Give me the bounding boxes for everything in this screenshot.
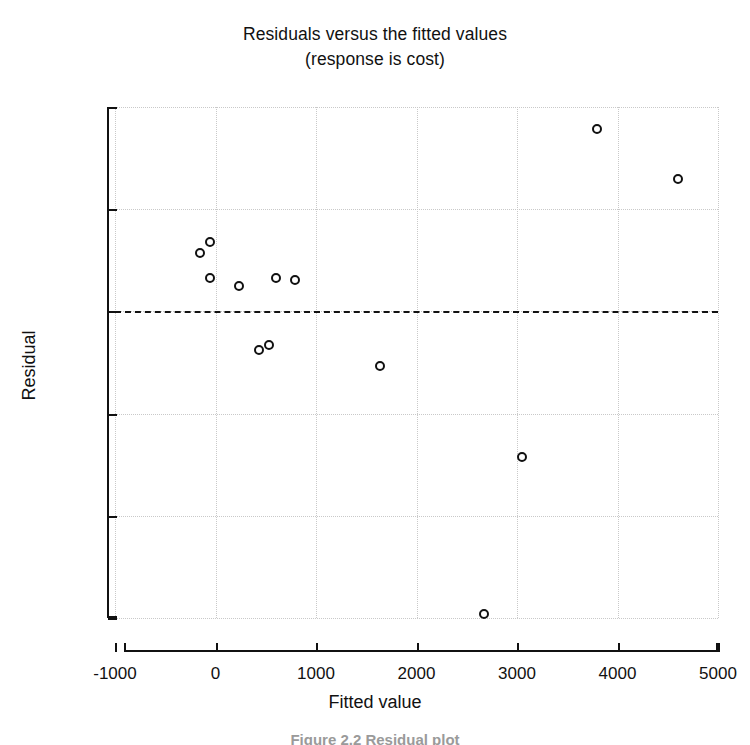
data-point <box>205 273 215 283</box>
gridline-horizontal <box>115 414 718 415</box>
y-axis-tick-label: -1500 <box>0 616 2 736</box>
data-point <box>205 237 215 247</box>
x-axis-tick-label: 2000 <box>398 664 436 684</box>
x-axis-tick-label: 4000 <box>599 664 637 684</box>
gridline-vertical <box>115 107 116 618</box>
data-point <box>195 248 205 258</box>
gridline-vertical <box>618 107 619 618</box>
y-axis-line <box>107 107 109 618</box>
y-axis-tick <box>108 209 117 211</box>
x-axis-tick-label: 0 <box>211 664 220 684</box>
gridline-horizontal <box>115 516 718 517</box>
x-axis-tick <box>115 643 117 652</box>
x-axis-tick-label: -1000 <box>93 664 136 684</box>
data-point <box>290 275 300 285</box>
x-axis-tick-label: 3000 <box>498 664 536 684</box>
data-point <box>264 340 274 350</box>
x-axis-tick <box>216 643 218 652</box>
y-axis-tick <box>108 516 117 518</box>
x-axis-tick <box>417 643 419 652</box>
y-axis-title-wrap: Residual <box>14 270 44 460</box>
y-axis-title: Residual <box>19 271 40 461</box>
x-axis-tick <box>517 643 519 652</box>
y-axis-tick <box>108 311 117 313</box>
y-axis-tick <box>108 618 117 620</box>
x-axis-tick <box>718 643 720 652</box>
gridline-vertical <box>718 107 719 618</box>
x-axis-tick <box>618 643 620 652</box>
residual-plot-figure: Residuals versus the fitted values (resp… <box>0 0 750 745</box>
gridline-vertical <box>417 107 418 618</box>
chart-subtitle: (response is cost) <box>0 47 750 72</box>
gridline-vertical <box>216 107 217 618</box>
data-point <box>479 609 489 619</box>
x-axis-cap-left <box>124 643 126 652</box>
data-point <box>517 452 527 462</box>
plot-area <box>115 107 718 618</box>
data-point <box>592 124 602 134</box>
chart-title-block: Residuals versus the fitted values (resp… <box>0 22 750 72</box>
gridline-horizontal <box>115 209 718 210</box>
gridline-vertical <box>517 107 518 618</box>
data-point <box>375 361 385 371</box>
gridline-vertical <box>316 107 317 618</box>
data-point <box>254 345 264 355</box>
zero-reference-line <box>115 311 718 313</box>
chart-title: Residuals versus the fitted values <box>0 22 750 47</box>
x-axis-tick-label: 1000 <box>297 664 335 684</box>
x-axis-line <box>124 650 718 652</box>
data-point <box>234 281 244 291</box>
x-axis-tick-label: 5000 <box>699 664 737 684</box>
y-axis-tick <box>108 414 117 416</box>
data-point <box>673 174 683 184</box>
gridline-horizontal <box>115 618 718 619</box>
y-axis-tick <box>108 107 117 109</box>
x-axis-title: Fitted value <box>0 692 750 713</box>
figure-caption: Figure 2.2 Residual plot <box>0 731 750 745</box>
x-axis-tick <box>316 643 318 652</box>
gridline-horizontal <box>115 107 718 108</box>
data-point <box>271 273 281 283</box>
